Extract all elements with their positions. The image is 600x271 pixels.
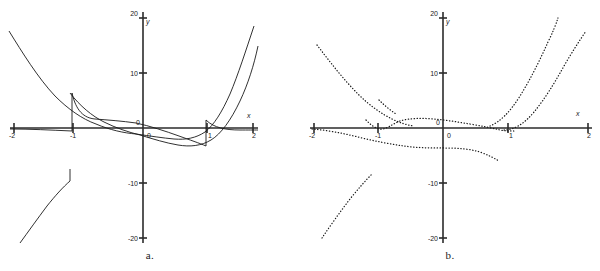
y-axis-label-a: y — [145, 18, 150, 26]
y-tick-label-20-a: 20 — [130, 10, 138, 17]
x-tick-label--1-a: -1 — [70, 132, 76, 139]
dotcurve-steep-left-b — [317, 45, 414, 126]
y-tick-label-0-a: 0 — [136, 119, 140, 126]
panel-a-caption: a. — [0, 249, 300, 261]
x-tick-label-1-b: 1 — [509, 132, 513, 139]
y-tick-label-10-a: 10 — [130, 70, 138, 77]
dotcurve-flat-upper-b — [366, 118, 514, 131]
dotcurve-lower-left-branch-b — [322, 174, 372, 238]
x-tick-label--2-a: -2 — [9, 132, 15, 139]
panel-b: -2 -1 0 1 2 20 10 0 -10 -20 y x — [300, 0, 600, 271]
panel-b-caption: b. — [300, 249, 600, 261]
y-tick-label--10-b: -10 — [428, 180, 438, 187]
curve-flat-left-a — [10, 129, 72, 131]
y-tick-label-10-b: 10 — [430, 70, 438, 77]
x-tick-label-0-b: 0 — [447, 132, 451, 139]
x-tick-label--1-b: -1 — [375, 132, 381, 139]
x-tick-label-1-a: 1 — [208, 132, 212, 139]
y-tick-label--10-a: -10 — [128, 180, 138, 187]
y-tick-label--20-a: -20 — [128, 235, 138, 242]
x-tick-label-2-a: 2 — [252, 132, 256, 139]
x-axis-label-a: x — [246, 112, 251, 119]
dotcurve-wide-right-b — [504, 31, 586, 130]
curve-lower-left-branch-a — [20, 181, 70, 243]
figure-container: -2 -1 0 1 2 20 10 0 -10 -20 y x — [0, 0, 600, 271]
plot-a: -2 -1 0 1 2 20 10 0 -10 -20 y x — [0, 0, 300, 250]
x-axis-label-b: x — [575, 110, 580, 117]
dotcurve-steep-right-b — [490, 18, 558, 126]
y-tick-label-0-b: 0 — [436, 119, 440, 126]
y-tick-label--20-b: -20 — [428, 235, 438, 242]
x-tick-label-2-b: 2 — [587, 132, 591, 139]
dotcurve-stub-b — [379, 100, 396, 114]
panel-a: -2 -1 0 1 2 20 10 0 -10 -20 y x — [0, 0, 300, 271]
dotcurve-flat-lower-b — [312, 129, 499, 161]
plot-b: -2 -1 0 1 2 20 10 0 -10 -20 y x — [300, 0, 600, 250]
y-axis-label-b: y — [445, 18, 450, 26]
x-tick-label--2-b: -2 — [309, 132, 315, 139]
y-tick-label-20-b: 20 — [430, 10, 438, 17]
